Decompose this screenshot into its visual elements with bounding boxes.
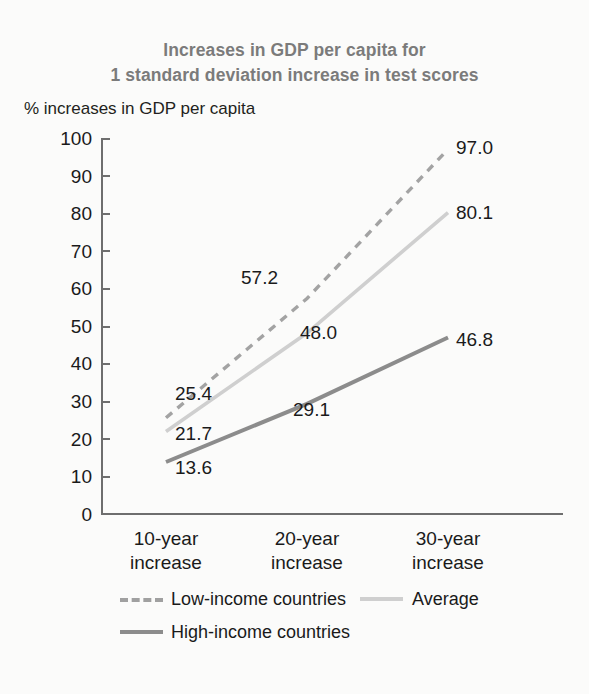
y-tick-80	[101, 213, 110, 215]
y-tick-100	[101, 138, 110, 140]
x-category-30-year-line1: 30-year	[373, 527, 523, 551]
x-category-20-year-line2: increase	[232, 551, 382, 575]
y-tick-label-70: 70	[14, 242, 92, 261]
y-tick-label-30: 30	[14, 392, 92, 411]
x-category-label-10-year: 10-year increase	[91, 527, 241, 575]
y-tick-70	[101, 250, 110, 252]
legend-label-average: Average	[412, 589, 479, 609]
x-category-label-30-year: 30-year increase	[373, 527, 523, 575]
legend-swatch-average	[360, 597, 403, 601]
chart-title-line-2: 1 standard deviation increase in test sc…	[0, 63, 589, 88]
y-tick-label-20: 20	[14, 430, 92, 449]
y-tick-label-100: 100	[14, 129, 92, 148]
y-axis-label: % increases in GDP per capita	[24, 99, 255, 119]
x-category-10-year-line1: 10-year	[91, 527, 241, 551]
y-tick-60	[101, 288, 110, 290]
legend-label-low-income: Low-income countries	[171, 589, 346, 609]
y-tick-30	[101, 401, 110, 403]
y-tick-90	[101, 175, 110, 177]
y-tick-label-0: 0	[14, 505, 92, 524]
data-label-average-30yr: 80.1	[456, 203, 493, 222]
legend-swatch-low-income	[120, 598, 163, 602]
y-tick-10	[101, 476, 110, 478]
x-category-10-year-line2: increase	[91, 551, 241, 575]
legend-label-high-income: High-income countries	[171, 622, 350, 642]
y-tick-label-80: 80	[14, 204, 92, 223]
data-label-low-income-30yr: 97.0	[456, 138, 493, 157]
chart-title: Increases in GDP per capita for 1 standa…	[0, 38, 589, 88]
legend-swatch-high-income	[120, 630, 163, 634]
y-tick-label-10: 10	[14, 467, 92, 486]
chart-title-line-1: Increases in GDP per capita for	[163, 40, 425, 60]
data-label-high-income-10yr: 13.6	[175, 458, 212, 477]
x-axis-line	[101, 513, 563, 515]
y-tick-40	[101, 363, 110, 365]
data-label-high-income-30yr: 46.8	[456, 330, 493, 349]
y-tick-label-50: 50	[14, 317, 92, 336]
series-line-low-income	[166, 149, 448, 418]
x-category-label-20-year: 20-year increase	[232, 527, 382, 575]
data-label-average-10yr: 21.7	[175, 424, 212, 443]
x-category-20-year-line1: 20-year	[232, 527, 382, 551]
data-label-high-income-20yr: 29.1	[293, 400, 330, 419]
y-tick-label-90: 90	[14, 167, 92, 186]
y-tick-50	[101, 326, 110, 328]
x-category-30-year-line2: increase	[373, 551, 523, 575]
data-label-low-income-20yr: 57.2	[241, 268, 278, 287]
data-label-low-income-10yr: 25.4	[175, 384, 212, 403]
y-tick-20	[101, 438, 110, 440]
y-tick-label-40: 40	[14, 354, 92, 373]
chart-figure: Increases in GDP per capita for 1 standa…	[0, 0, 589, 694]
data-label-average-20yr: 48.0	[300, 323, 337, 342]
y-tick-label-60: 60	[14, 279, 92, 298]
